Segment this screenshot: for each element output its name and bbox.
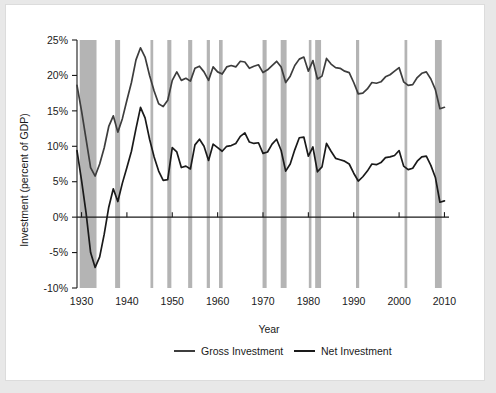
recession-band <box>115 40 120 288</box>
x-tick-label: 2010 <box>433 295 457 307</box>
x-axis-title: Year <box>258 323 280 335</box>
x-tick-label: 1970 <box>251 295 275 307</box>
y-axis-title: Investment (percent of GDP) <box>18 113 30 247</box>
chart-figure: 25%20%15%10%5%0%-5%-10%19301940195019601… <box>6 5 484 380</box>
x-tick-label: 1930 <box>70 295 94 307</box>
recession-bands-group <box>80 40 442 288</box>
tick-labels-group: 25%20%15%10%5%0%-5%-10%19301940195019601… <box>43 34 456 307</box>
figure-page: 25%20%15%10%5%0%-5%-10%19301940195019601… <box>6 5 484 380</box>
y-tick-label: 25% <box>47 34 68 46</box>
y-tick-label: 0% <box>53 211 68 223</box>
x-tick-label: 1960 <box>206 295 230 307</box>
recession-band <box>405 40 408 288</box>
recession-band <box>219 40 223 288</box>
legend-label-net: Net Investment <box>321 345 392 357</box>
recession-band <box>435 40 442 288</box>
recession-band <box>80 40 97 288</box>
legend-label-gross: Gross Investment <box>201 345 283 357</box>
investment-line-chart: 25%20%15%10%5%0%-5%-10%19301940195019601… <box>6 5 484 380</box>
recession-band <box>309 40 312 288</box>
x-tick-label: 1950 <box>161 295 185 307</box>
y-tick-label: -5% <box>49 246 68 258</box>
series-line-net-investment <box>77 107 444 267</box>
y-tick-label: -10% <box>43 282 68 294</box>
recession-band <box>356 40 359 288</box>
x-tick-label: 1940 <box>115 295 139 307</box>
y-tick-label: 15% <box>47 105 68 117</box>
recession-band <box>263 40 267 288</box>
y-tick-label: 10% <box>47 140 68 152</box>
x-tick-label: 1980 <box>297 295 321 307</box>
x-tick-label: 1990 <box>342 295 366 307</box>
series-group <box>77 48 444 268</box>
x-tick-label: 2000 <box>387 295 411 307</box>
y-tick-label: 5% <box>53 175 68 187</box>
chart-legend: Gross InvestmentNet Investment <box>174 345 392 357</box>
y-tick-label: 20% <box>47 69 68 81</box>
